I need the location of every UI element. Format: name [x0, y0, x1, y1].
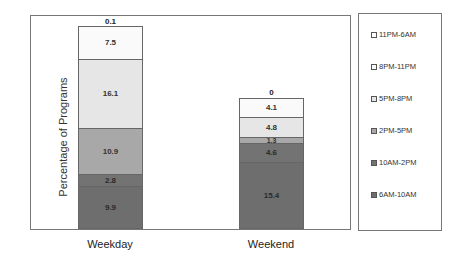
legend-item: 2PM-5PM — [371, 126, 412, 135]
legend: 11PM-6AM8PM-11PM5PM-8PM2PM-5PM10AM-2PM6A… — [358, 13, 442, 231]
legend-item: 11PM-6AM — [371, 30, 416, 39]
segment-value-label: 1.3 — [267, 137, 277, 144]
legend-swatch-icon — [371, 64, 377, 70]
x-label-weekend: Weekend — [221, 238, 321, 250]
y-axis-label: Percentage of Programs — [57, 37, 69, 237]
legend-label: 2PM-5PM — [379, 126, 412, 135]
legend-label: 11PM-6AM — [379, 30, 416, 39]
segment-value-label: 10.9 — [103, 147, 119, 156]
segment-value-label: 4.8 — [266, 123, 277, 132]
bar-segment: 4.8 — [240, 117, 303, 138]
weekday-top-label: 0.1 — [78, 17, 143, 26]
legend-item: 8PM-11PM — [371, 62, 416, 71]
segment-value-label: 16.1 — [103, 89, 119, 98]
legend-label: 8PM-11PM — [379, 62, 416, 71]
segment-value-label: 9.9 — [105, 203, 116, 212]
legend-item: 5PM-8PM — [371, 94, 412, 103]
legend-item: 6AM-10AM — [371, 190, 417, 199]
bar-segment: 1.3 — [240, 137, 303, 143]
bar-segment: 15.4 — [240, 162, 303, 228]
bar-segment: 4.6 — [240, 143, 303, 163]
bar-segment: 16.1 — [79, 59, 142, 128]
legend-label: 5PM-8PM — [379, 94, 412, 103]
bar-segment: 9.9 — [79, 186, 142, 228]
x-label-weekday: Weekday — [60, 238, 160, 250]
legend-item: 10AM-2PM — [371, 158, 417, 167]
plot-area: Percentage of Programs 0.1 9.92.810.916.… — [30, 15, 351, 230]
segment-value-label: 4.1 — [266, 103, 277, 112]
bar-segment: 10.9 — [79, 128, 142, 174]
segment-value-label: 7.5 — [105, 38, 116, 47]
weekend-bar: 15.44.61.34.84.1 — [239, 98, 304, 229]
weekday-bar: 9.92.810.916.17.5 — [78, 26, 143, 229]
legend-label: 10AM-2PM — [379, 158, 417, 167]
legend-swatch-icon — [371, 128, 377, 134]
segment-value-label: 4.6 — [266, 148, 277, 157]
segment-value-label: 15.4 — [264, 191, 280, 200]
weekend-top-label: 0 — [239, 88, 304, 97]
bar-segment: 7.5 — [79, 27, 142, 59]
legend-swatch-icon — [371, 192, 377, 198]
legend-swatch-icon — [371, 96, 377, 102]
legend-label: 6AM-10AM — [379, 190, 417, 199]
legend-swatch-icon — [371, 32, 377, 38]
legend-swatch-icon — [371, 160, 377, 166]
bar-segment: 4.1 — [240, 99, 303, 117]
bar-segment: 2.8 — [79, 174, 142, 186]
segment-value-label: 2.8 — [105, 176, 116, 185]
